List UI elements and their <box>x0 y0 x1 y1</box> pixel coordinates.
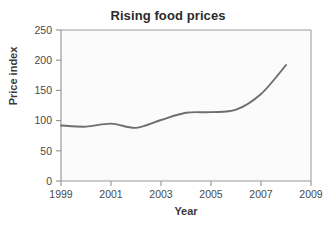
y-tick-label: 0 <box>46 175 52 187</box>
x-tick-label: 2001 <box>99 188 123 200</box>
y-tick-label: 50 <box>40 145 52 157</box>
x-tick-label: 2009 <box>299 188 323 200</box>
y-axis-ticks: 050100150200250 <box>34 24 61 187</box>
y-tick-label: 200 <box>34 54 52 66</box>
y-tick-label: 150 <box>34 84 52 96</box>
y-axis-label: Price index <box>7 31 19 121</box>
chart-figure: Rising food prices 050100150200250 19992… <box>0 0 336 232</box>
y-tick-label: 250 <box>34 24 52 36</box>
y-tick-label: 100 <box>34 114 52 126</box>
x-tick-label: 2003 <box>149 188 173 200</box>
x-axis-label: Year <box>61 205 311 217</box>
x-axis-ticks: 199920012003200520072009 <box>49 181 323 200</box>
x-tick-label: 2007 <box>249 188 273 200</box>
x-tick-label: 2005 <box>199 188 223 200</box>
plot-background <box>61 30 311 181</box>
line-chart-plot: 050100150200250 199920012003200520072009 <box>0 0 336 232</box>
x-tick-label: 1999 <box>49 188 73 200</box>
